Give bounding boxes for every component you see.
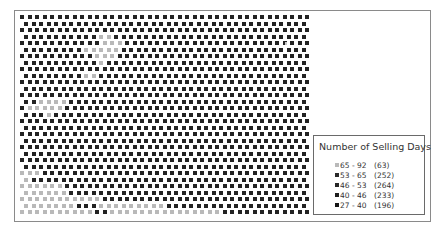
grid-cell: [73, 210, 77, 214]
grid-cell: [69, 165, 73, 169]
grid-cell: [28, 132, 32, 136]
grid-cell: [80, 80, 84, 84]
grid-cell: [193, 132, 197, 136]
grid-cell: [200, 67, 204, 71]
grid-cell: [43, 15, 47, 19]
grid-cell: [200, 93, 204, 97]
grid-cell: [107, 87, 111, 91]
grid-cell: [223, 197, 227, 201]
grid-cell: [28, 119, 32, 123]
grid-cell: [114, 204, 118, 208]
grid-cell: [219, 74, 223, 78]
grid-cell: [24, 126, 28, 130]
grid-cell: [234, 178, 238, 182]
grid-cell: [80, 158, 84, 162]
grid-cell: [242, 178, 246, 182]
grid-cell: [290, 210, 294, 214]
grid-cell: [99, 139, 103, 143]
grid-cell: [204, 87, 208, 91]
grid-cell: [39, 178, 43, 182]
grid-cell: [260, 197, 264, 201]
grid-cell: [178, 54, 182, 58]
grid-cell: [88, 54, 92, 58]
grid-cell: [223, 184, 227, 188]
grid-cell: [279, 204, 283, 208]
grid-cell: [163, 145, 167, 149]
grid-cell: [62, 165, 66, 169]
grid-cell: [152, 139, 156, 143]
grid-cell: [200, 15, 204, 19]
grid-cell: [234, 165, 238, 169]
grid-cell: [174, 191, 178, 195]
grid-cell: [43, 184, 47, 188]
grid-cell: [242, 74, 246, 78]
grid-cell: [227, 165, 231, 169]
grid-cell: [107, 126, 111, 130]
grid-cell: [88, 184, 92, 188]
grid-cell: [103, 197, 107, 201]
grid-cell: [279, 61, 283, 65]
grid-cell: [182, 191, 186, 195]
grid-cell: [223, 210, 227, 214]
grid-cell: [245, 158, 249, 162]
grid-cell: [28, 41, 32, 45]
grid-cell: [272, 191, 276, 195]
grid-cell: [167, 113, 171, 117]
grid-cell: [107, 61, 111, 65]
grid-cell: [234, 204, 238, 208]
grid-cell: [84, 48, 88, 52]
grid-cell: [283, 158, 287, 162]
grid-cell: [290, 171, 294, 175]
grid-cell: [174, 48, 178, 52]
grid-cell: [39, 204, 43, 208]
grid-cell: [245, 54, 249, 58]
grid-cell: [279, 87, 283, 91]
grid-cell: [155, 184, 159, 188]
grid-cell: [260, 93, 264, 97]
grid-cell: [99, 126, 103, 130]
grid-cell: [298, 54, 302, 58]
grid-cell: [290, 184, 294, 188]
grid-cell: [230, 145, 234, 149]
grid-cell: [234, 61, 238, 65]
grid-cell: [118, 210, 122, 214]
grid-cell: [28, 171, 32, 175]
grid-cell: [144, 152, 148, 156]
grid-cell: [242, 48, 246, 52]
grid-cell: [268, 80, 272, 84]
grid-cell: [238, 80, 242, 84]
grid-cell: [287, 22, 291, 26]
grid-cell: [133, 106, 137, 110]
grid-cell: [245, 41, 249, 45]
grid-cell: [129, 191, 133, 195]
grid-cell: [47, 87, 51, 91]
grid-cell: [212, 74, 216, 78]
grid-cell: [182, 204, 186, 208]
grid-cell: [80, 67, 84, 71]
grid-cell: [43, 67, 47, 71]
grid-cell: [197, 48, 201, 52]
grid-cell: [95, 93, 99, 97]
grid-cell: [230, 158, 234, 162]
grid-cell: [114, 178, 118, 182]
grid-cell: [140, 67, 144, 71]
grid-cell: [43, 80, 47, 84]
grid-cell: [170, 158, 174, 162]
grid-cell: [204, 191, 208, 195]
grid-cell: [58, 15, 62, 19]
grid-cell: [167, 126, 171, 130]
grid-cell: [290, 119, 294, 123]
grid-cell: [103, 80, 107, 84]
grid-cell: [28, 54, 32, 58]
grid-cell: [159, 165, 163, 169]
grid-cell: [272, 22, 276, 26]
grid-cell: [110, 145, 114, 149]
grid-cell: [204, 165, 208, 169]
grid-cell: [215, 80, 219, 84]
grid-cell: [275, 93, 279, 97]
grid-cell: [219, 61, 223, 65]
grid-cell: [283, 145, 287, 149]
legend-range: 46 - 53: [340, 181, 374, 190]
grid-cell: [230, 106, 234, 110]
grid-cell: [110, 197, 114, 201]
